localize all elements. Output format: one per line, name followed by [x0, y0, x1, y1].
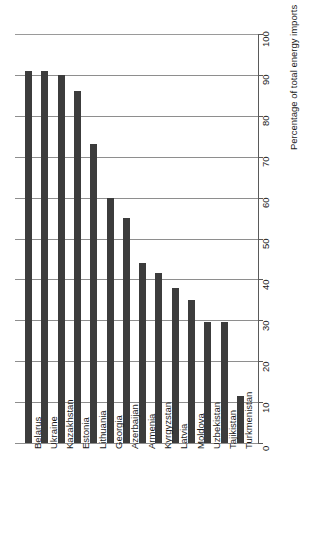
bar-lithuania: [90, 144, 97, 443]
tick-label-10: 10: [261, 402, 271, 413]
tick-0: [258, 443, 263, 444]
bar-uzbekistan: [204, 322, 211, 443]
tick-label-70: 70: [261, 157, 271, 168]
tick-label-40: 40: [261, 279, 271, 290]
bar-turkmenistan: [237, 396, 244, 443]
bar-azerbaijan: [123, 218, 130, 443]
gridline-40: [15, 279, 258, 280]
bar-moldova: [188, 300, 195, 443]
tick-label-80: 80: [261, 116, 271, 127]
bar-estonia: [74, 91, 81, 443]
gridline-30: [15, 320, 258, 321]
bar-chart: 0102030405060708090100 BelarusUkraineKaz…: [0, 0, 310, 546]
bar-ukraine: [41, 71, 48, 443]
tick-label-50: 50: [261, 238, 271, 249]
tick-label-20: 20: [261, 361, 271, 372]
bar-armenia: [139, 263, 146, 443]
bar-kyrgyzstan: [155, 273, 162, 443]
gridline-60: [15, 198, 258, 199]
bar-latvia: [172, 288, 179, 443]
gridline-90: [15, 75, 258, 76]
bar-georgia: [107, 198, 114, 443]
gridline-100: [15, 34, 258, 35]
tick-label-0: 0: [261, 445, 271, 450]
bar-tajikistan: [221, 322, 228, 443]
gridline-70: [15, 157, 258, 158]
bar-belarus: [25, 71, 32, 443]
tick-label-100: 100: [261, 31, 271, 47]
value-axis-title: Percentage of total energy imports: [288, 5, 299, 150]
bar-kazakhstan: [58, 75, 65, 443]
plot-area: [15, 34, 258, 443]
tick-label-30: 30: [261, 320, 271, 331]
tick-label-60: 60: [261, 198, 271, 209]
gridline-0: [15, 443, 258, 444]
gridline-80: [15, 116, 258, 117]
tick-label-90: 90: [261, 75, 271, 86]
gridline-50: [15, 239, 258, 240]
